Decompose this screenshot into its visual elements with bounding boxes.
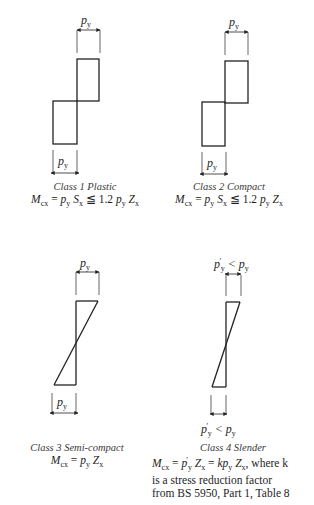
class3-title: Class 3 Semi-compact bbox=[2, 442, 152, 454]
class1-title: Class 1 Plastic bbox=[10, 181, 160, 193]
class1-top-label: py bbox=[81, 14, 91, 31]
class2-title: Class 2 Compact bbox=[154, 181, 304, 193]
class2-diagram bbox=[200, 32, 248, 175]
class2-caption: Class 2 Compact Mcx = py Sx ≦ 1.2 py Zx bbox=[154, 181, 304, 210]
class4-diagram bbox=[210, 274, 241, 414]
class4-note-line1: is a stress reduction factor bbox=[152, 474, 314, 487]
class1-diagram bbox=[51, 30, 100, 174]
stress-block-diagrams bbox=[0, 0, 314, 505]
class4-title: Class 4 Slender bbox=[150, 442, 314, 454]
class4-body: Mcx = p′y Zx = kpy Zx, where k is a stre… bbox=[150, 454, 314, 500]
class2-top-label: py bbox=[229, 16, 239, 33]
class1-caption: Class 1 Plastic Mcx = py Sx ≦ 1.2 py Zx bbox=[10, 181, 160, 210]
class3-caption: Class 3 Semi-compact Mcx = py Zx bbox=[2, 442, 152, 471]
class1-bottom-label: py bbox=[58, 155, 68, 172]
class2-bottom-label: py bbox=[207, 157, 217, 174]
class1-equation: Mcx = py Sx ≦ 1.2 py Zx bbox=[10, 193, 160, 210]
class3-bottom-label: py bbox=[57, 396, 67, 413]
class2-equation: Mcx = py Sx ≦ 1.2 py Zx bbox=[154, 193, 304, 210]
class4-equation: Mcx = p′y Zx = kpy Zx, where k bbox=[152, 454, 314, 474]
class3-top-label: py bbox=[80, 257, 90, 274]
class3-equation: Mcx = py Zx bbox=[2, 454, 152, 471]
class4-caption: Class 4 Slender Mcx = p′y Zx = kpy Zx, w… bbox=[150, 442, 314, 500]
class4-note-line2: from BS 5950, Part 1, Table 8 bbox=[152, 487, 314, 500]
class4-top-label: p′y < py bbox=[214, 256, 249, 275]
class3-diagram bbox=[50, 272, 99, 414]
class4-bottom-label: p′y < py bbox=[201, 421, 236, 440]
